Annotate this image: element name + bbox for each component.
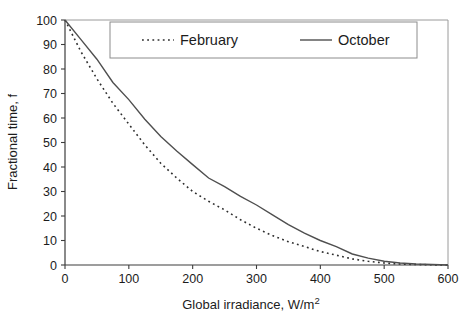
x-tick-label: 400 — [310, 272, 331, 286]
x-tick-label: 100 — [118, 272, 139, 286]
y-tick-label: 80 — [43, 63, 57, 77]
y-tick-label: 0 — [50, 259, 57, 273]
x-tick-label: 200 — [182, 272, 203, 286]
y-tick-label: 90 — [43, 38, 57, 52]
x-tick-label: 600 — [438, 272, 459, 286]
y-tick-label: 40 — [43, 161, 57, 175]
x-tick-label: 0 — [62, 272, 69, 286]
y-tick-label: 50 — [43, 136, 57, 150]
legend: February October — [110, 22, 417, 58]
x-axis-title-main: Global irradiance, W/m — [182, 297, 314, 312]
x-tick-label: 300 — [246, 272, 267, 286]
chart-figure: 0100200300400500600010203040506070809010… — [0, 0, 473, 325]
y-tick-label: 10 — [43, 234, 57, 248]
y-tick-label: 60 — [43, 112, 57, 126]
legend-label-february: February — [180, 32, 239, 48]
y-axis-title: Fractional time, f — [5, 94, 20, 190]
y-tick-label: 30 — [43, 185, 57, 199]
x-axis-title: Global irradiance, W/m2 — [182, 295, 320, 312]
chart-canvas: 0100200300400500600010203040506070809010… — [0, 0, 473, 325]
y-tick-label: 100 — [36, 14, 57, 28]
x-axis-title-superscript: 2 — [314, 295, 319, 306]
legend-label-october: October — [338, 32, 390, 48]
x-tick-label: 500 — [374, 272, 395, 286]
y-tick-label: 70 — [43, 87, 57, 101]
y-tick-label: 20 — [43, 210, 57, 224]
